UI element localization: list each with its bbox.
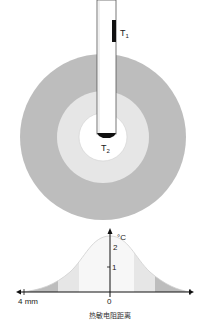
thermistor-diagram: T1 T2 °C 2 1 4 mm 0 热敏电阻距离 <box>0 0 205 328</box>
y-axis-arrow-icon <box>108 228 113 234</box>
x-axis-left-arrow-icon <box>16 290 21 295</box>
x-tick-0: 0 <box>107 297 112 306</box>
y-tick-2: 2 <box>113 243 118 252</box>
x-tick-4mm: 4 mm <box>18 297 38 306</box>
y-tick-1: 1 <box>112 263 117 272</box>
x-axis-caption: 热敏电阻距离 <box>89 311 131 320</box>
t1-subscript: 1 <box>126 33 130 39</box>
temperature-curve-area <box>22 230 191 292</box>
y-axis-unit: °C <box>117 233 126 242</box>
sensor-t1-icon <box>112 20 116 42</box>
svg-text:T1: T1 <box>120 28 130 39</box>
